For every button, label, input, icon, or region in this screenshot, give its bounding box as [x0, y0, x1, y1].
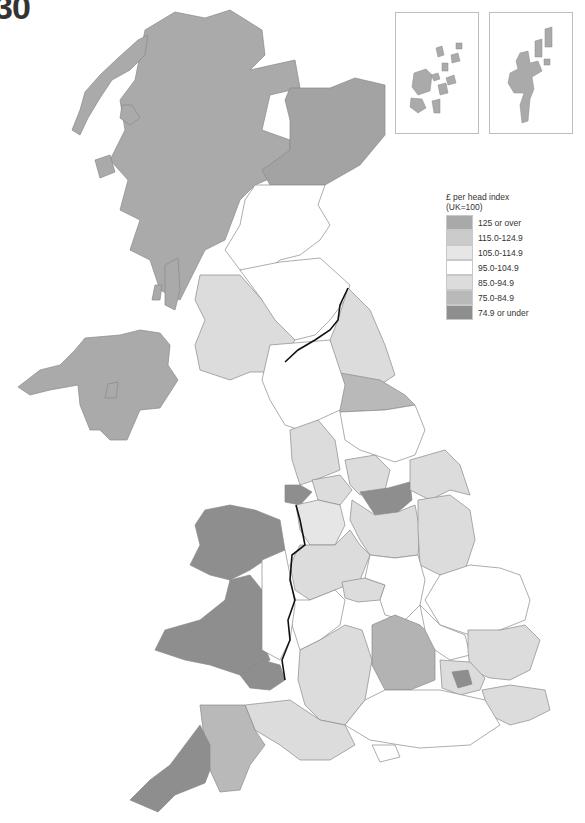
- orkney-islands-shape: [396, 13, 478, 133]
- region-lancashire: [290, 420, 340, 485]
- legend-item: 95.0-104.9: [446, 260, 529, 275]
- legend-item: 125 or over: [446, 215, 529, 230]
- region-east-anglia: [425, 565, 530, 635]
- legend-swatch: [446, 305, 473, 320]
- legend-swatch: [446, 215, 473, 230]
- region-grampian: [262, 78, 385, 185]
- legend-title-line1: £ per head index: [446, 192, 529, 202]
- legend-item: 105.0-114.9: [446, 245, 529, 260]
- legend-item: 115.0-124.9: [446, 230, 529, 245]
- legend-item: 75.0-84.9: [446, 290, 529, 305]
- region-humberside: [410, 450, 470, 500]
- legend-label: 115.0-124.9: [478, 233, 523, 243]
- region-northern-ireland: [18, 330, 178, 440]
- inset-orkney: [395, 12, 479, 134]
- legend-swatch: [446, 230, 473, 245]
- legend-label: 85.0-94.9: [478, 278, 514, 288]
- legend-title-line2: (UK=100): [446, 202, 529, 212]
- region-cumbria: [262, 340, 345, 430]
- legend-swatch: [446, 290, 473, 305]
- legend-swatch: [446, 245, 473, 260]
- region-north-yorkshire: [340, 405, 425, 462]
- legend-item: 85.0-94.9: [446, 275, 529, 290]
- legend-swatch: [446, 275, 473, 290]
- region-lincolnshire: [418, 495, 475, 575]
- map-legend: £ per head index (UK=100) 125 or over 11…: [446, 192, 529, 320]
- legend-label: 105.0-114.9: [478, 248, 523, 258]
- legend-swatch: [446, 260, 473, 275]
- shetland-islands-shape: [490, 13, 572, 133]
- legend-label: 74.9 or under: [478, 308, 529, 318]
- legend-label: 125 or over: [478, 218, 521, 228]
- inset-shetland: [489, 12, 573, 134]
- region-isle-of-wight: [372, 745, 400, 762]
- legend-label: 95.0-104.9: [478, 263, 519, 273]
- region-south-east: [345, 690, 500, 748]
- region-cornwall: [130, 725, 210, 812]
- legend-title: £ per head index (UK=100): [446, 192, 529, 212]
- legend-label: 75.0-84.9: [478, 293, 514, 303]
- legend-item: 74.9 or under: [446, 305, 529, 320]
- region-wales-south-west: [155, 575, 270, 675]
